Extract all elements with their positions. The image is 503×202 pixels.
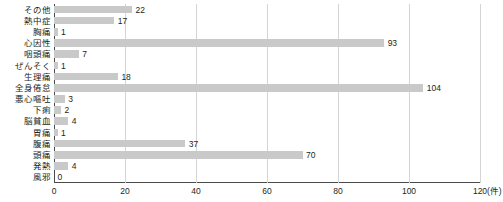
bar-row: 脳貧血4 xyxy=(0,116,503,127)
category-label: 心因性 xyxy=(24,39,54,48)
bar-row: 悪心嘔吐3 xyxy=(0,94,503,105)
bar xyxy=(54,117,68,125)
x-tick-label-40: 40 xyxy=(191,187,200,196)
bar-value-label: 0 xyxy=(54,173,62,182)
x-axis: 020406080100120(件) xyxy=(0,184,503,202)
bar-row: 咽頭痛7 xyxy=(0,49,503,60)
bar-wrapper: 104 xyxy=(54,82,503,93)
category-label: ぜんそく xyxy=(15,61,54,70)
bar-wrapper: 3 xyxy=(54,94,503,105)
bar-wrapper: 17 xyxy=(54,15,503,26)
bar-wrapper: 1 xyxy=(54,127,503,138)
x-tick-label-20: 20 xyxy=(120,187,129,196)
x-tick-label-100: 100 xyxy=(402,187,416,196)
bar-row: ぜんそく1 xyxy=(0,60,503,71)
category-label: 脳貧血 xyxy=(24,117,54,126)
category-label: 頭痛 xyxy=(33,151,54,160)
bar-row: 胸痛1 xyxy=(0,26,503,37)
bar-value-label: 4 xyxy=(68,162,76,171)
bar xyxy=(54,50,79,58)
x-tick-label-80: 80 xyxy=(333,187,342,196)
bar-value-label: 18 xyxy=(118,72,131,81)
bar-wrapper: 4 xyxy=(54,116,503,127)
bar-value-label: 104 xyxy=(423,84,441,93)
bar xyxy=(54,106,61,114)
bar xyxy=(54,6,132,14)
x-axis-unit-label: (件) xyxy=(487,187,502,196)
bar-wrapper: 7 xyxy=(54,49,503,60)
horizontal-bar-chart: その他22熱中症17胸痛1心因性93咽頭痛7ぜんそく1生理痛18全身倦怠104悪… xyxy=(0,0,503,202)
bar-value-label: 3 xyxy=(65,95,73,104)
bar xyxy=(54,151,303,159)
bar-wrapper: 18 xyxy=(54,71,503,82)
bar-value-label: 1 xyxy=(58,128,66,137)
bar-wrapper: 2 xyxy=(54,105,503,116)
bar-row: 下痢2 xyxy=(0,105,503,116)
category-label: 全身倦怠 xyxy=(15,84,54,93)
bar-wrapper: 0 xyxy=(54,172,503,183)
category-label: 下痢 xyxy=(33,106,54,115)
category-label: 咽頭痛 xyxy=(24,50,54,59)
bar-row: 発熱4 xyxy=(0,161,503,172)
bar-value-label: 70 xyxy=(303,151,316,160)
bar-row: 頭痛70 xyxy=(0,149,503,160)
bar-row: 風邪0 xyxy=(0,172,503,183)
bar-value-label: 17 xyxy=(114,17,127,26)
category-label: 胃痛 xyxy=(33,128,54,137)
category-label: 腹痛 xyxy=(33,140,54,149)
bar-row: 熱中症17 xyxy=(0,15,503,26)
x-tick-label-120: 120 xyxy=(473,187,487,196)
category-label: 発熱 xyxy=(33,162,54,171)
bar xyxy=(54,162,68,170)
bar-wrapper: 70 xyxy=(54,149,503,160)
bar-value-label: 93 xyxy=(384,39,397,48)
category-label: 生理痛 xyxy=(24,72,54,81)
category-label: 悪心嘔吐 xyxy=(15,95,54,104)
bar-value-label: 1 xyxy=(58,28,66,37)
bar xyxy=(54,140,185,148)
bar-wrapper: 1 xyxy=(54,26,503,37)
bar-wrapper: 93 xyxy=(54,38,503,49)
category-label: 胸痛 xyxy=(33,28,54,37)
category-label: 風邪 xyxy=(33,173,54,182)
bar-wrapper: 37 xyxy=(54,138,503,149)
category-label: その他 xyxy=(24,5,54,14)
bar-value-label: 37 xyxy=(185,140,198,149)
bar xyxy=(54,17,114,25)
bar-wrapper: 4 xyxy=(54,161,503,172)
bar xyxy=(54,39,384,47)
bar-wrapper: 22 xyxy=(54,4,503,15)
bar-value-label: 2 xyxy=(61,106,69,115)
bar-row: その他22 xyxy=(0,4,503,15)
x-tick-label-0: 0 xyxy=(52,187,57,196)
bar-wrapper: 1 xyxy=(54,60,503,71)
bar-value-label: 1 xyxy=(58,61,66,70)
bar-rows: その他22熱中症17胸痛1心因性93咽頭痛7ぜんそく1生理痛18全身倦怠104悪… xyxy=(0,4,503,183)
bar-value-label: 22 xyxy=(132,5,145,14)
bar xyxy=(54,84,423,92)
category-label: 熱中症 xyxy=(24,17,54,26)
bar-row: 生理痛18 xyxy=(0,71,503,82)
bar-row: 胃痛1 xyxy=(0,127,503,138)
bar-value-label: 4 xyxy=(68,117,76,126)
bar xyxy=(54,95,65,103)
bar-row: 腹痛37 xyxy=(0,138,503,149)
x-tick-label-60: 60 xyxy=(262,187,271,196)
bar-row: 全身倦怠104 xyxy=(0,82,503,93)
bar-row: 心因性93 xyxy=(0,38,503,49)
bar-value-label: 7 xyxy=(79,50,87,59)
bar xyxy=(54,73,118,81)
